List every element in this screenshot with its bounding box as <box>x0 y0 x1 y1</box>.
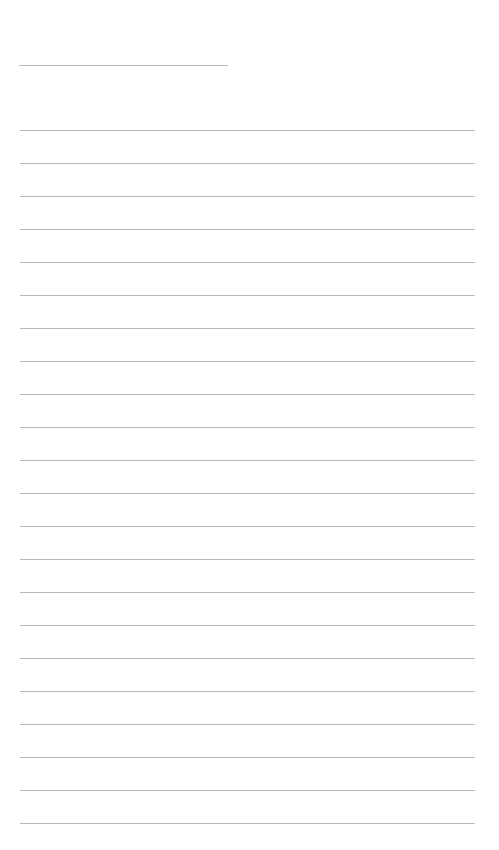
ruled-line[interactable] <box>20 328 475 329</box>
ruled-line[interactable] <box>20 427 475 428</box>
ruled-line[interactable] <box>20 757 475 758</box>
ruled-line[interactable] <box>20 526 475 527</box>
ruled-line[interactable] <box>20 493 475 494</box>
ruled-line[interactable] <box>20 691 475 692</box>
ruled-line[interactable] <box>20 229 475 230</box>
ruled-line[interactable] <box>20 130 475 131</box>
ruled-line[interactable] <box>20 460 475 461</box>
ruled-line[interactable] <box>20 790 475 791</box>
ruled-line[interactable] <box>20 724 475 725</box>
ruled-line[interactable] <box>20 592 475 593</box>
title-line[interactable] <box>19 65 228 66</box>
ruled-line[interactable] <box>20 394 475 395</box>
ruled-line[interactable] <box>20 823 475 824</box>
ruled-line[interactable] <box>20 559 475 560</box>
ruled-line[interactable] <box>20 361 475 362</box>
ruled-line[interactable] <box>20 196 475 197</box>
ruled-line[interactable] <box>20 295 475 296</box>
ruled-line[interactable] <box>20 163 475 164</box>
ruled-line[interactable] <box>20 262 475 263</box>
ruled-line[interactable] <box>20 658 475 659</box>
ruled-line[interactable] <box>20 625 475 626</box>
